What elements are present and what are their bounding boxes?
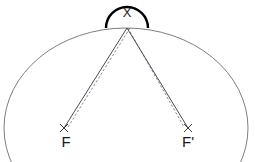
segment-x-to-f-prime [127, 28, 188, 128]
focus-marker-right [184, 124, 192, 132]
label-vertex-x: X [123, 5, 132, 20]
ellipse-curve [4, 28, 248, 162]
segment-x-to-f [64, 28, 127, 128]
ellipse-figure-container: X F F' [0, 0, 255, 162]
label-focus-left: F [61, 133, 70, 150]
label-focus-right: F' [182, 133, 194, 150]
focus-marker-left [60, 124, 68, 132]
ellipse-diagram: X F F' [0, 0, 255, 162]
dashed-segment-x-to-f [68, 28, 130, 127]
